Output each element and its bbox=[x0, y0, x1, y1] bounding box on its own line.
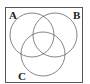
label-a: A bbox=[9, 9, 17, 21]
circle-b bbox=[33, 13, 77, 57]
venn-diagram: A B C bbox=[0, 0, 90, 84]
label-b: B bbox=[73, 9, 81, 21]
label-c: C bbox=[18, 70, 26, 82]
